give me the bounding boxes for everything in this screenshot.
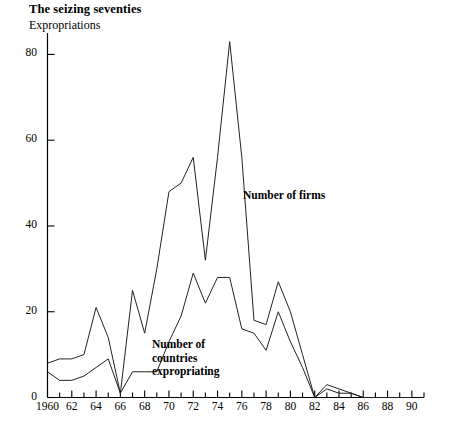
series-label-countries-line2: countries (152, 352, 220, 366)
series-line-countries (48, 273, 412, 397)
series-label-countries: Number of countries expropriating (152, 338, 220, 379)
y-axis-tick-label: 20 (11, 304, 37, 316)
y-axis-tick-label: 80 (11, 46, 37, 58)
series-label-firms: Number of firms (243, 189, 325, 203)
series-label-countries-line3: expropriating (152, 365, 220, 379)
series-line-firms (48, 42, 412, 398)
x-axis-ticks (48, 391, 425, 398)
chart-figure: The seizing seventies Expropriations 020… (0, 0, 449, 421)
y-axis-tick-label: 60 (11, 132, 37, 144)
series-label-countries-line1: Number of (152, 338, 220, 352)
x-axis-tick-label: 90 (392, 400, 432, 412)
series-label-firms-line1: Number of firms (243, 189, 325, 203)
chart-axes (48, 33, 425, 398)
chart-series-group (48, 42, 412, 398)
chart-plot-area (0, 0, 449, 421)
y-axis-ticks (48, 54, 55, 397)
y-axis-tick-label: 40 (11, 218, 37, 230)
